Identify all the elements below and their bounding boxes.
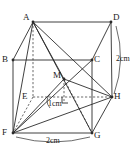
vertex-dot-d	[110, 21, 113, 24]
vertex-label-h: H	[114, 92, 121, 101]
vertex-label-m: M	[53, 71, 61, 80]
vertex-dot-f	[12, 132, 15, 135]
geometry-figure: ABCDEFGHM2cm1cm2cm	[0, 0, 135, 147]
diagram-canvas	[0, 0, 135, 147]
vertex-dot-b	[12, 59, 15, 62]
vertex-dot-a	[32, 21, 35, 24]
segment-FH	[13, 97, 112, 133]
right-angle-marker	[62, 97, 68, 103]
vertex-label-c: C	[94, 55, 100, 64]
vertex-label-f: F	[2, 128, 7, 137]
vertex-label-g: G	[94, 131, 101, 140]
vertex-dot-g	[91, 132, 94, 135]
vertex-dot-m	[63, 78, 66, 81]
vertex-label-e: E	[22, 92, 28, 101]
segment-AF	[13, 22, 33, 133]
edge-GH	[92, 97, 112, 133]
vertex-label-d: D	[113, 13, 120, 22]
dimension-label-m-drop: 1cm	[48, 100, 62, 108]
vertex-label-a: A	[23, 13, 30, 22]
vertex-label-b: B	[2, 55, 8, 64]
segment-AH	[33, 22, 112, 97]
dimension-label-base: 2cm	[46, 137, 60, 145]
vertex-dot-h	[111, 96, 114, 99]
vertex-dot-c	[91, 59, 94, 62]
edge-DH	[111, 22, 112, 97]
dimension-label-height: 2cm	[116, 55, 130, 63]
